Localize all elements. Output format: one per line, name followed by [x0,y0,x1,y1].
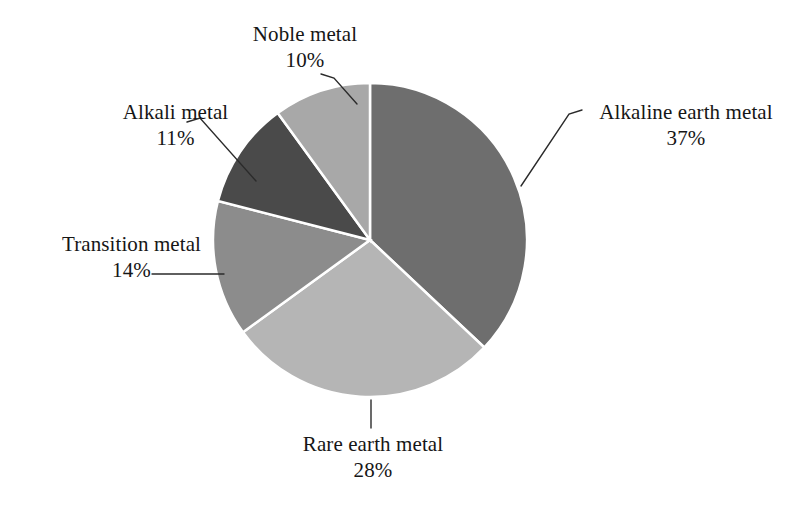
pie-label-rare-earth-metal: Rare earth metal 28% [248,432,498,483]
pie-label-alkaline-earth-metal-value: 37% [566,126,793,152]
pie-label-noble-metal: Noble metal 10% [190,22,420,73]
pie-label-alkali-metal-value: 11% [68,126,283,152]
pie-label-alkali-metal: Alkali metal 11% [68,100,283,151]
pie-label-transition-metal-value: 14% [14,258,249,284]
pie-label-alkaline-earth-metal: Alkaline earth metal 37% [566,100,793,151]
pie-label-transition-metal: Transition metal 14% [14,232,249,283]
pie-label-noble-metal-name: Noble metal [190,22,420,48]
pie-label-alkali-metal-name: Alkali metal [68,100,283,126]
pie-label-rare-earth-metal-name: Rare earth metal [248,432,498,458]
pie-label-transition-metal-name: Transition metal [14,232,249,258]
pie-label-alkaline-earth-metal-name: Alkaline earth metal [566,100,793,126]
pie-chart-figure: Noble metal 10% Alkali metal 11% Transit… [0,0,793,510]
pie-label-rare-earth-metal-value: 28% [248,458,498,484]
pie-label-noble-metal-value: 10% [190,48,420,74]
